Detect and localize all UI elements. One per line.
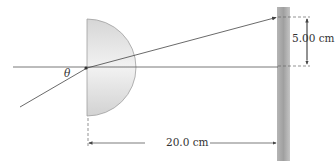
screen <box>277 7 290 161</box>
angle-label: θ <box>64 68 70 79</box>
entry-point <box>84 66 87 69</box>
incident-ray <box>20 68 87 107</box>
diagram: θ 5.00 cm 20.0 cm <box>0 0 335 167</box>
semicircular-lens <box>87 19 136 116</box>
vertical-distance-label: 5.00 cm <box>292 33 335 44</box>
horizontal-distance-label: 20.0 cm <box>166 137 209 148</box>
